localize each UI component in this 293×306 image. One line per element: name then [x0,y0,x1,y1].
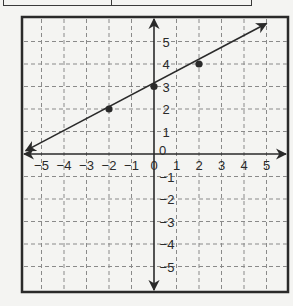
x-tick-label: 0 [150,158,157,173]
data-point [195,60,202,67]
y-tick-label: 1 [162,125,169,140]
x-tick-label: −4 [57,158,72,173]
y-tick-label: 4 [162,57,169,72]
x-tick-label: −5 [34,158,49,173]
y-tick-label: −3 [160,215,175,230]
x-tick-label: 2 [195,158,202,173]
x-tick-label: −2 [102,158,117,173]
y-tick-label: 5 [162,35,169,50]
x-tick-label: −3 [79,158,94,173]
y-tick-label: 3 [162,80,169,95]
y-tick-label: 2 [162,102,169,117]
x-tick-label: 4 [240,158,247,173]
y-tick-label: 0 [159,143,166,158]
y-tick-label: −2 [160,192,175,207]
y-tick-label: −1 [160,170,175,185]
y-tick-label: −5 [160,260,175,275]
x-tick-label: 5 [263,158,270,173]
data-point [105,105,112,112]
data-point [150,83,157,90]
y-tick-label: −4 [160,237,175,252]
x-tick-label: 3 [218,158,225,173]
coordinate-plane: −5−4−3−2−1012345543210−1−2−3−4−5 [0,0,293,306]
x-tick-label: −1 [124,158,139,173]
axes [24,19,286,290]
